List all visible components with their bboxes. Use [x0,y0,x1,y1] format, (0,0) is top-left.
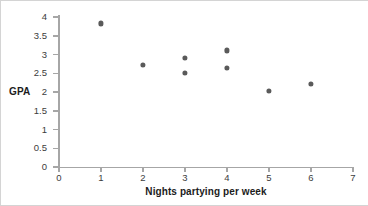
data-point [182,70,187,75]
x-tick-label: 4 [217,173,237,183]
x-tick-label: 0 [49,173,69,183]
x-tick-label: 5 [259,173,279,183]
data-point [140,62,145,67]
y-tick-label: 1 [21,125,47,135]
y-tick-label: 3.5 [21,31,47,41]
data-point [182,55,187,60]
y-tick-label: 0 [21,162,47,172]
x-tick-label: 1 [91,173,111,183]
x-tick-label: 2 [133,173,153,183]
x-tick-label: 6 [301,173,321,183]
x-tick-label: 7 [343,173,363,183]
y-tick-label: 2.5 [21,68,47,78]
plot-area [59,17,353,167]
x-axis-title: Nights partying per week [59,187,353,197]
y-tick-label: 1.5 [21,106,47,116]
x-tick-label: 3 [175,173,195,183]
data-point [224,48,229,53]
data-point [308,82,313,87]
y-tick-label: 3 [21,50,47,60]
y-axis-title: GPA [9,87,31,97]
data-point [266,89,271,94]
scatter-plot-figure: 00.511.522.533.54 01234567 GPA Nights pa… [0,0,368,206]
data-point [98,21,103,26]
y-tick-label: 4 [21,12,47,22]
y-tick-label: 0.5 [21,143,47,153]
data-point [224,65,229,70]
